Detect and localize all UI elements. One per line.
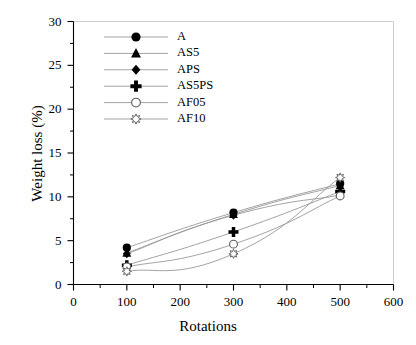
y-tick-label: 0 <box>28 277 62 293</box>
x-tick-label: 0 <box>54 294 94 310</box>
x-tick-label: 100 <box>107 294 147 310</box>
x-tick-label: 300 <box>214 294 254 310</box>
legend-label-as5: AS5 <box>177 45 199 60</box>
x-tick-label: 500 <box>320 294 360 310</box>
legend-marker-af10 <box>131 114 141 124</box>
series-markers-group <box>122 173 345 276</box>
y-axis-title: Weight loss (%) <box>29 54 46 254</box>
data-point-af10-100 <box>122 267 131 276</box>
legend-label-as5ps: AS5PS <box>177 78 213 93</box>
legend-marker-aps <box>132 65 141 75</box>
x-tick-label: 600 <box>374 294 414 310</box>
data-point-af10-500 <box>336 173 345 182</box>
x-tick-label: 200 <box>160 294 200 310</box>
data-point-af05-300 <box>230 240 238 248</box>
legend-marker-af05 <box>132 98 141 107</box>
legend-marker-as5 <box>131 48 141 58</box>
legend-markers-group <box>130 32 141 124</box>
legend-marker-as5ps <box>130 81 141 92</box>
data-point-as5ps-300 <box>229 227 239 237</box>
x-axis-title: Rotations <box>0 318 416 335</box>
legend-label-af10: AF10 <box>177 111 205 126</box>
legend-marker-a <box>131 32 140 41</box>
data-point-af05-500 <box>336 192 344 200</box>
legend-label-aps: APS <box>177 62 200 77</box>
chart-figure: 0100200300400500600051015202530 AAS5APSA… <box>0 0 416 345</box>
y-tick-label: 30 <box>28 14 62 30</box>
legend-label-a: A <box>177 29 186 44</box>
legend-label-af05: AF05 <box>177 95 205 110</box>
data-point-af10-300 <box>229 249 238 258</box>
x-tick-label: 400 <box>267 294 307 310</box>
